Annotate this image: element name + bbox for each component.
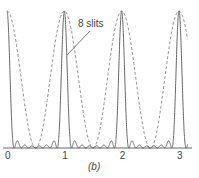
annotation-label: 8 slits — [78, 18, 104, 29]
x-tick-label: 1 — [62, 150, 68, 161]
figure-caption: (b) — [88, 161, 100, 172]
annotation-leader-line — [67, 31, 90, 55]
x-tick-label: 2 — [120, 150, 126, 161]
series-8-slits — [7, 11, 188, 148]
interference-chart: 01238 slits(b) — [0, 0, 199, 178]
series-envelope — [7, 11, 188, 148]
x-tick-label: 3 — [177, 150, 183, 161]
x-tick-label: 0 — [5, 150, 11, 161]
